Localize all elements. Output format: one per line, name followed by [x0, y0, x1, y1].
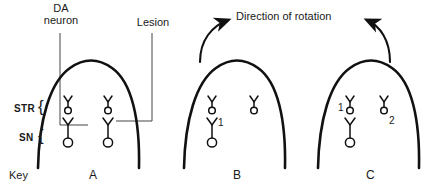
small-neuron-icon: [250, 96, 258, 114]
panel-b-neuron-right: [250, 96, 258, 114]
small-neuron-icon: [104, 96, 112, 114]
small-neuron-icon: [380, 96, 388, 114]
da-neuron-label: DA neuron: [33, 3, 89, 26]
curved-arrow-up-right-icon: [200, 20, 228, 62]
panel-c-neuron-left: [345, 96, 355, 147]
sn-region-label: SN: [19, 133, 34, 144]
panel-a-brain-outline: [38, 61, 139, 169]
panel-a-neuron-right: [103, 96, 113, 147]
str-brace-icon: {: [38, 98, 44, 116]
panel-b-neuron-number-1: 1: [218, 118, 224, 129]
figure-vector-layer: [0, 0, 425, 191]
large-neuron-icon: [103, 118, 113, 147]
panel-c-neuron-number-1: 1: [338, 103, 344, 114]
lesion-label: Lesion: [128, 17, 178, 29]
panel-c-neuron-number-2: 2: [389, 116, 395, 127]
key-label: Key: [9, 170, 28, 182]
small-neuron-icon: [208, 96, 216, 114]
panel-a-leader-lines: [60, 33, 152, 125]
panel-label-c: C: [366, 169, 375, 182]
large-neuron-icon: [345, 118, 355, 147]
curved-arrow-up-left-icon: [367, 20, 390, 62]
panel-c-brain-outline: [318, 61, 419, 169]
sn-brace-icon: {: [38, 127, 44, 145]
figure-canvas: DA neuron Lesion Direction of rotation S…: [0, 0, 425, 191]
large-neuron-icon: [207, 118, 217, 147]
panel-c-neuron-right: [380, 96, 388, 114]
da-neuron-label-line2: neuron: [44, 14, 78, 26]
da-neuron-label-line1: DA: [53, 2, 68, 14]
large-neuron-icon: [63, 118, 73, 147]
small-neuron-icon: [346, 96, 354, 114]
panel-b-neuron-left: [207, 96, 217, 147]
panel-label-a: A: [89, 169, 97, 182]
panel-b-brain-outline: [184, 61, 285, 169]
direction-of-rotation-label: Direction of rotation: [236, 11, 331, 23]
small-neuron-icon: [64, 96, 72, 114]
str-region-label: STR: [14, 104, 35, 115]
panel-label-b: B: [233, 169, 241, 182]
panel-a-neuron-left: [63, 96, 73, 147]
